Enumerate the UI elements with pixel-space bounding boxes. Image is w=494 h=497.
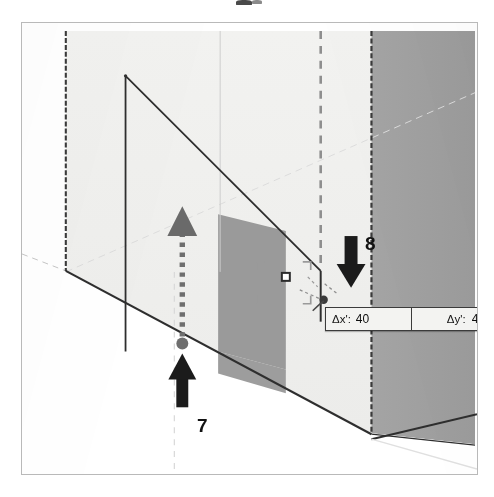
measurement-dx-field[interactable]: Δx': 40 xyxy=(326,308,412,330)
measurement-dy-value: 47,1 xyxy=(472,312,478,326)
page-text-remnant-secondary xyxy=(252,0,262,4)
measurement-dx-label: Δx': xyxy=(332,313,351,325)
callout-number-7: 7 xyxy=(197,416,208,435)
scanned-page: 8 7 Δx': 40 Δy': 47,1 xyxy=(0,0,494,497)
page-text-remnant xyxy=(236,0,252,5)
start-point-dot xyxy=(176,338,188,350)
endpoint-square-marker[interactable] xyxy=(282,273,290,281)
measurement-dy-label: Δy': xyxy=(447,313,466,325)
callout-number-8: 8 xyxy=(365,234,376,253)
3d-modeling-viewport[interactable] xyxy=(22,23,477,474)
wall-face-right-dark xyxy=(371,31,475,444)
figure-plate: 8 7 Δx': 40 Δy': 47,1 xyxy=(21,22,478,475)
measurements-box[interactable]: Δx': 40 Δy': 47,1 xyxy=(325,307,478,331)
measurement-dy-field[interactable]: Δy': 47,1 xyxy=(412,308,478,330)
selected-face-gray-panel xyxy=(218,214,286,369)
vertex-dot-top-left xyxy=(124,74,127,77)
measurement-dx-value: 40 xyxy=(356,312,369,326)
